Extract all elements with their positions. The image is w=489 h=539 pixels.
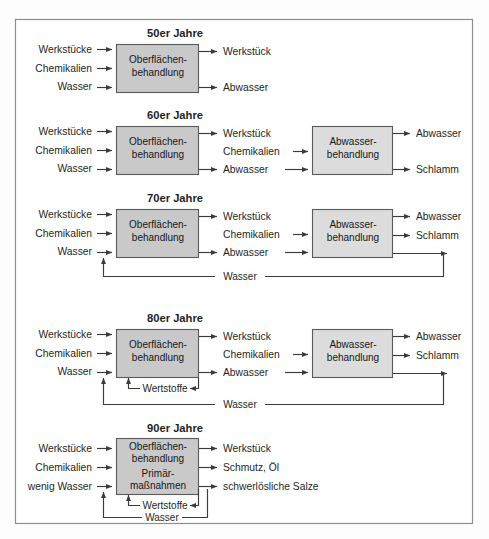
input-label-werkstuecke: Werkstücke — [38, 209, 92, 220]
second-box-line-1: Abwasser- — [329, 339, 376, 350]
loop-label-wertstoffe: Wertstoffe — [142, 383, 188, 394]
input-label-werkstuecke: Werkstücke — [38, 44, 92, 55]
loop-label-wasser: Wasser — [223, 399, 257, 410]
process-box-line-3: Primär- — [142, 468, 175, 479]
second-output-label-schlamm: Schlamm — [416, 230, 459, 241]
loop-label-wertstoffe: Wertstoffe — [142, 500, 188, 511]
input-label-werkstuecke: Werkstücke — [38, 443, 92, 454]
output-label-schmutz-oel: Schmutz, Öl — [223, 462, 279, 473]
section-title-90er: 90er Jahre — [147, 422, 203, 434]
input-label-werkstuecke: Werkstücke — [38, 329, 92, 340]
output-label-werkstueck: Werkstück — [223, 211, 272, 222]
second-output-label-schlamm: Schlamm — [416, 164, 459, 175]
section-title-50er: 50er Jahre — [147, 27, 203, 39]
output-label-abwasser: Abwasser — [223, 367, 269, 378]
second-box-line-1: Abwasser- — [329, 219, 376, 230]
output-label-werkstueck: Werkstück — [223, 46, 272, 57]
process-flow-diagram: 50er Jahre Oberflächen- behandlung Werks… — [0, 0, 489, 539]
process-box-line-1: Oberflächen- — [129, 54, 187, 65]
process-box-line-2: behandlung — [132, 352, 184, 363]
second-output-label-schlamm: Schlamm — [416, 350, 459, 361]
output-label-chemikalien: Chemikalien — [223, 349, 280, 360]
input-label-chemikalien: Chemikalien — [35, 63, 92, 74]
second-box-line-2: behandlung — [327, 232, 379, 243]
input-label-wasser: Wasser — [57, 163, 92, 174]
process-box-line-2: behandlung — [132, 232, 184, 243]
diagram-canvas: 50er Jahre Oberflächen- behandlung Werks… — [0, 0, 489, 539]
process-box-line-2: behandlung — [132, 67, 184, 78]
process-box-line-2: behandlung — [132, 453, 184, 464]
loop-label-wasser: Wasser — [223, 271, 257, 282]
input-label-wasser: Wasser — [57, 246, 92, 257]
output-label-abwasser: Abwasser — [223, 164, 269, 175]
process-box-line-1: Oberflächen- — [129, 136, 187, 147]
process-box-line-1: Oberflächen- — [129, 339, 187, 350]
process-box-line-1: Oberflächen- — [129, 441, 187, 452]
input-label-chemikalien: Chemikalien — [35, 228, 92, 239]
input-label-chemikalien: Chemikalien — [35, 145, 92, 156]
input-label-wenig-wasser: wenig Wasser — [27, 481, 93, 492]
output-label-chemikalien: Chemikalien — [223, 146, 280, 157]
second-output-label-abwasser: Abwasser — [416, 211, 462, 222]
output-label-chemikalien: Chemikalien — [223, 229, 280, 240]
section-title-60er: 60er Jahre — [147, 109, 203, 121]
output-label-abwasser: Abwasser — [223, 82, 269, 93]
input-label-werkstuecke: Werkstücke — [38, 126, 92, 137]
input-label-chemikalien: Chemikalien — [35, 348, 92, 359]
second-box-line-2: behandlung — [327, 352, 379, 363]
second-box-line-2: behandlung — [327, 149, 379, 160]
second-box-line-1: Abwasser- — [329, 136, 376, 147]
output-label-werkstueck: Werkstück — [223, 331, 272, 342]
input-label-chemikalien: Chemikalien — [35, 462, 92, 473]
process-box-line-4: maßnahmen — [130, 480, 186, 491]
output-label-schwerloesliche-salze: schwerlösliche Salze — [223, 481, 319, 492]
output-label-abwasser: Abwasser — [223, 247, 269, 258]
section-title-70er: 70er Jahre — [147, 192, 203, 204]
loop-label-wasser: Wasser — [145, 512, 179, 523]
input-label-wasser: Wasser — [57, 81, 92, 92]
input-label-wasser: Wasser — [57, 366, 92, 377]
section-title-80er: 80er Jahre — [147, 312, 203, 324]
output-label-werkstueck: Werkstück — [223, 443, 272, 454]
output-label-werkstueck: Werkstück — [223, 128, 272, 139]
second-output-label-abwasser: Abwasser — [416, 331, 462, 342]
second-output-label-abwasser: Abwasser — [416, 128, 462, 139]
process-box-line-2: behandlung — [132, 149, 184, 160]
process-box-line-1: Oberflächen- — [129, 219, 187, 230]
